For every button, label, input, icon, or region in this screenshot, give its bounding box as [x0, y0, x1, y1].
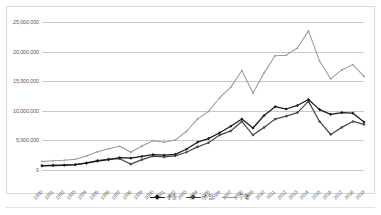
- x-axis-tick-label: 1991: [43, 189, 55, 201]
- series-marker: [74, 163, 77, 166]
- legend-item-무역[interactable]: 무역: [222, 193, 249, 201]
- series-marker: [340, 111, 343, 114]
- series-marker: [319, 60, 321, 62]
- series-marker: [174, 139, 176, 141]
- x-axis-tick-label: 1995: [87, 189, 99, 201]
- series-marker: [308, 30, 310, 32]
- series-marker: [274, 55, 276, 57]
- x-axis-tick-label: 2010: [254, 189, 266, 201]
- series-marker: [97, 151, 99, 153]
- series-marker: [119, 145, 121, 147]
- x-axis-tick-label: 2016: [321, 189, 333, 201]
- series-marker: [129, 157, 132, 160]
- chart-figure: 05,000,00010,000,00015,000,00020,000,000…: [0, 0, 381, 215]
- series-marker: [86, 155, 88, 157]
- series-marker: [241, 70, 243, 72]
- series-marker: [140, 155, 143, 158]
- series-marker: [63, 164, 66, 167]
- series-marker: [74, 158, 76, 160]
- legend-swatch-icon: [186, 194, 201, 201]
- y-axis: 05,000,00010,000,00015,000,00020,000,000…: [0, 22, 39, 170]
- y-axis-tick-label: 10,000,000: [13, 108, 39, 114]
- x-axis: 1990199119921993199419951996199719981999…: [42, 171, 364, 193]
- y-axis-tick-label: 20,000,000: [13, 49, 39, 55]
- legend-label: 수출: [167, 193, 177, 201]
- series-marker: [352, 64, 354, 66]
- x-axis-tick-label: 1994: [76, 189, 88, 201]
- legend-swatch-icon: [222, 194, 237, 201]
- series-marker: [197, 118, 199, 120]
- x-axis-tick-label: 2011: [265, 189, 277, 201]
- legend-item-수출[interactable]: 수출: [150, 193, 177, 201]
- series-marker: [363, 76, 365, 78]
- x-axis-tick-label: 2019: [354, 189, 366, 201]
- y-axis-tick-label: 15,000,000: [13, 78, 39, 84]
- legend-swatch-icon: [150, 194, 165, 201]
- y-axis-tick-label: 0: [36, 167, 39, 173]
- plot-area: [42, 22, 364, 170]
- x-axis-tick-label: 2014: [298, 189, 310, 201]
- chart-legend: 수출수입무역: [150, 193, 249, 201]
- series-marker: [52, 164, 55, 167]
- series-marker: [285, 107, 288, 110]
- series-marker: [219, 97, 221, 99]
- series-marker: [130, 151, 132, 153]
- series-marker: [208, 110, 210, 112]
- series-marker: [285, 115, 288, 118]
- x-axis-tick-label: 2015: [309, 189, 321, 201]
- series-marker: [141, 145, 143, 147]
- series-marker: [152, 140, 154, 142]
- series-marker: [330, 78, 332, 80]
- x-axis-tick-label: 2012: [276, 189, 288, 201]
- series-marker: [185, 131, 187, 133]
- x-axis-tick-label: 1992: [54, 189, 66, 201]
- x-axis-tick-label: 2017: [332, 189, 344, 201]
- bottom-divider: [6, 207, 375, 208]
- x-axis-tick-label: 2018: [343, 189, 355, 201]
- chart-lines: [42, 22, 364, 170]
- series-marker: [108, 148, 110, 150]
- series-marker: [63, 159, 65, 161]
- x-axis-tick-label: 1998: [121, 189, 133, 201]
- x-axis-tick-label: 1996: [99, 189, 111, 201]
- legend-label: 수입: [203, 193, 213, 201]
- series-marker: [52, 160, 54, 162]
- legend-label: 무역: [239, 193, 249, 201]
- x-axis-tick-label: 1997: [110, 189, 122, 201]
- x-axis-tick-label: 1993: [65, 189, 77, 201]
- legend-item-수입[interactable]: 수입: [186, 193, 213, 201]
- x-axis-tick-label: 2013: [287, 189, 299, 201]
- series-line-수출: [42, 100, 364, 166]
- series-marker: [41, 161, 43, 163]
- series-marker: [263, 72, 265, 74]
- series-marker: [285, 54, 287, 56]
- series-marker: [341, 69, 343, 71]
- series-line-수입: [42, 101, 364, 165]
- y-axis-tick-label: 25,000,000: [13, 19, 39, 25]
- series-marker: [252, 92, 254, 94]
- series-marker: [163, 141, 165, 143]
- series-marker: [296, 47, 298, 49]
- x-axis-tick-label: 1999: [132, 189, 144, 201]
- y-axis-tick-label: 5,000,000: [16, 137, 39, 143]
- series-marker: [230, 86, 232, 88]
- series-line-무역: [42, 31, 364, 162]
